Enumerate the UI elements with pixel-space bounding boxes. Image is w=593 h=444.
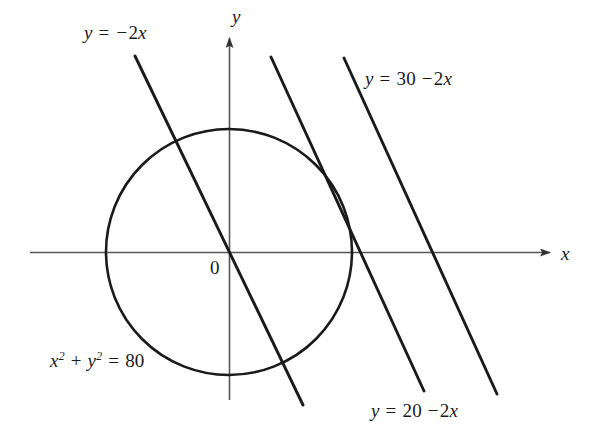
x-axis-label: x [561, 243, 569, 265]
label-variable: x [443, 68, 452, 89]
y-axis-label: y [232, 6, 240, 28]
label-line-y-equals-minus-2x: y = −2x [84, 22, 147, 44]
label-lhs: y [371, 400, 380, 421]
label-coefficient: 2 [440, 400, 450, 421]
label-equals: = [98, 22, 111, 43]
label-line-y-equals-30-minus-2x: y = 30 −2x [365, 68, 452, 90]
graph-figure: y = −2x y = 30 −2x y = 20 −2x x2 + y2 = … [0, 0, 593, 444]
label-lhs: y [84, 22, 93, 43]
origin-label: 0 [210, 257, 220, 279]
label-line-y-equals-20-minus-2x: y = 20 −2x [371, 400, 458, 422]
circle-x-var: x [50, 350, 59, 371]
label-sign: − [115, 22, 128, 43]
circle-equals: = [107, 350, 120, 371]
label-intercept: 30 [396, 68, 415, 89]
label-variable: x [449, 400, 458, 421]
line-y-equals-30-minus-2x [344, 58, 497, 394]
graph-canvas [0, 0, 593, 444]
label-circle-equation: x2 + y2 = 80 [50, 350, 145, 372]
line-y-equals-20-minus-2x [271, 57, 424, 391]
circle-y-exponent: 2 [96, 350, 102, 363]
circle-value: 80 [125, 350, 144, 371]
label-sign: − [421, 68, 434, 89]
label-variable: x [138, 22, 147, 43]
label-intercept: 20 [402, 400, 421, 421]
label-sign: − [427, 400, 440, 421]
circle-plus: + [70, 350, 83, 371]
label-lhs: y [365, 68, 374, 89]
label-equals: = [379, 68, 392, 89]
circle-x-exponent: 2 [59, 350, 65, 363]
label-coefficient: 2 [128, 22, 138, 43]
label-coefficient: 2 [434, 68, 444, 89]
circle-y-var: y [88, 350, 97, 371]
label-equals: = [385, 400, 398, 421]
